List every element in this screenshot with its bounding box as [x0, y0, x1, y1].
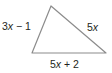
- bottom-side-label: 5x + 2: [50, 59, 79, 70]
- right-side-label: 5x: [87, 22, 98, 33]
- triangle-diagram: 3x − 1 5x 5x + 2: [0, 0, 112, 73]
- right-side-variable: x: [93, 21, 98, 33]
- bottom-side-constant: + 2: [61, 58, 79, 70]
- left-side-label: 3x − 1: [2, 21, 31, 32]
- left-side-constant: − 1: [13, 20, 31, 32]
